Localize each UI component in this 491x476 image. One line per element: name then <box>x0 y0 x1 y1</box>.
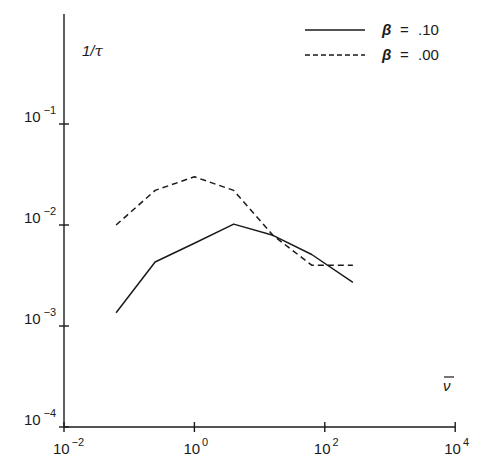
axes: 10−210010210410−410−310−210−11/τν <box>24 14 469 457</box>
y-tick-label: 10−1 <box>24 104 56 125</box>
series-beta-10-line <box>116 224 353 313</box>
x-tick-label: 104 <box>444 436 469 457</box>
legend-symbol: β <box>381 46 391 63</box>
y-tick-label: 10−4 <box>24 407 56 428</box>
legend-symbol: β <box>381 21 391 38</box>
x-axis-label: ν <box>443 377 451 394</box>
legend: β=.10β=.00 <box>305 21 439 63</box>
legend-value: .10 <box>418 21 439 38</box>
y-axis-label: 1/τ <box>82 42 104 60</box>
log-log-chart: 10−210010210410−410−310−210−11/τν β=.10β… <box>0 0 491 476</box>
legend-value: .00 <box>418 46 439 63</box>
series-lines <box>116 177 353 313</box>
series-beta-00-line <box>116 177 353 265</box>
x-tick-label: 10−2 <box>53 436 84 457</box>
y-tick-label: 10−2 <box>24 205 56 226</box>
legend-equals: = <box>400 46 409 63</box>
x-tick-label: 100 <box>183 436 208 457</box>
legend-equals: = <box>400 21 409 38</box>
y-tick-label: 10−3 <box>24 306 56 327</box>
x-tick-label: 102 <box>314 436 339 457</box>
